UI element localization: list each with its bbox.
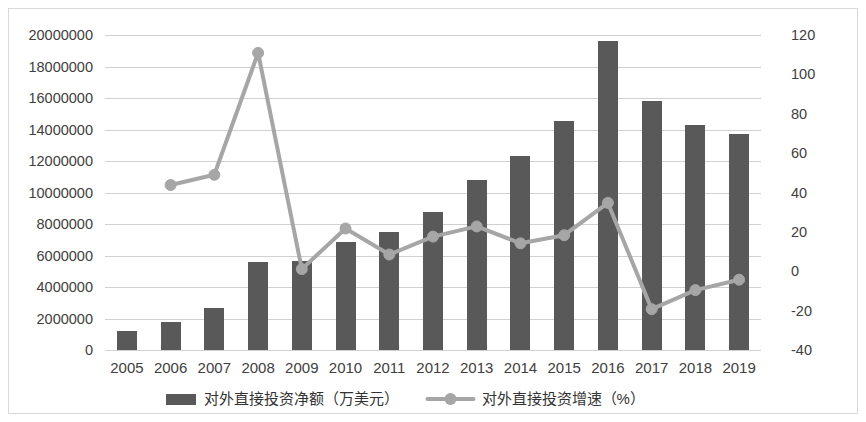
category-label: 2017 bbox=[635, 359, 668, 376]
legend-label: 对外直接投资净额（万美元） bbox=[204, 390, 399, 407]
category-label: 2014 bbox=[504, 359, 537, 376]
bar bbox=[117, 331, 137, 350]
category-axis-ticks: 2005200620072008200920102011201220132014… bbox=[110, 359, 756, 376]
bar bbox=[729, 134, 749, 350]
bar bbox=[467, 180, 487, 350]
left-axis-tick-label: 4000000 bbox=[37, 279, 93, 295]
left-axis-tick-label: 0 bbox=[85, 342, 93, 358]
line-marker bbox=[471, 221, 482, 232]
category-label: 2006 bbox=[154, 359, 187, 376]
line-marker bbox=[428, 231, 439, 242]
category-label: 2009 bbox=[285, 359, 318, 376]
right-axis-tick-label: 20 bbox=[791, 224, 807, 240]
left-axis-tick-label: 2000000 bbox=[37, 311, 93, 327]
bar bbox=[336, 242, 356, 350]
line-marker bbox=[209, 169, 220, 180]
left-axis-tick-label: 10000000 bbox=[28, 185, 93, 201]
right-axis-tick-label: 60 bbox=[791, 145, 807, 161]
right-axis-tick-label: 120 bbox=[791, 27, 815, 43]
line-marker bbox=[734, 274, 745, 285]
category-label: 2011 bbox=[373, 359, 405, 376]
left-axis-tick-label: 20000000 bbox=[28, 27, 93, 43]
category-label: 2008 bbox=[241, 359, 274, 376]
chart-container: 0200000040000006000000800000010000000120… bbox=[0, 0, 866, 422]
combo-chart: 0200000040000006000000800000010000000120… bbox=[0, 0, 866, 422]
line-marker bbox=[384, 249, 395, 260]
category-label: 2013 bbox=[460, 359, 493, 376]
bar bbox=[510, 156, 530, 350]
legend-label: 对外直接投资增速（%） bbox=[482, 390, 645, 407]
bar bbox=[161, 322, 181, 350]
line-marker bbox=[602, 197, 613, 208]
category-label: 2018 bbox=[679, 359, 712, 376]
bar bbox=[204, 308, 224, 350]
left-axis-tick-label: 14000000 bbox=[28, 122, 93, 138]
right-axis-tick-label: -20 bbox=[791, 303, 812, 319]
right-axis-tick-label: 0 bbox=[791, 263, 799, 279]
bar bbox=[598, 41, 618, 350]
left-axis-tick-label: 12000000 bbox=[28, 153, 93, 169]
left-axis-tick-label: 16000000 bbox=[28, 90, 93, 106]
line-marker bbox=[340, 223, 351, 234]
bar bbox=[248, 262, 268, 350]
right-axis-tick-label: 100 bbox=[791, 66, 815, 82]
line-marker bbox=[296, 264, 307, 275]
category-label: 2012 bbox=[416, 359, 449, 376]
left-axis-tick-label: 8000000 bbox=[37, 216, 93, 232]
left-axis-tick-label: 18000000 bbox=[28, 59, 93, 75]
left-axis-tick-label: 6000000 bbox=[37, 248, 93, 264]
bar bbox=[685, 125, 705, 350]
category-label: 2016 bbox=[591, 359, 624, 376]
legend-marker-icon bbox=[445, 393, 457, 405]
line-marker bbox=[165, 180, 176, 191]
category-label: 2015 bbox=[548, 359, 581, 376]
category-label: 2007 bbox=[198, 359, 231, 376]
right-axis-tick-label: 80 bbox=[791, 106, 807, 122]
line-marker bbox=[559, 230, 570, 241]
category-label: 2010 bbox=[329, 359, 362, 376]
line-marker bbox=[690, 285, 701, 296]
right-axis-tick-label: -40 bbox=[791, 342, 812, 358]
line-marker bbox=[515, 238, 526, 249]
category-label: 2019 bbox=[722, 359, 755, 376]
right-axis-tick-label: 40 bbox=[791, 185, 807, 201]
category-label: 2005 bbox=[110, 359, 143, 376]
line-marker bbox=[253, 47, 264, 58]
legend-bar-swatch-icon bbox=[166, 394, 196, 405]
line-marker bbox=[646, 304, 657, 315]
